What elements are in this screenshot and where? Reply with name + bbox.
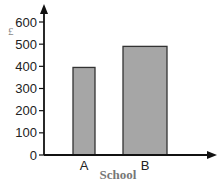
bar-a — [73, 67, 95, 155]
y-tick-label: 400 — [15, 59, 37, 74]
x-category-label: B — [141, 158, 150, 173]
bars — [73, 46, 167, 155]
x-category-label: A — [80, 158, 89, 173]
y-tick-label: 0 — [30, 148, 37, 163]
y-tick-label: 200 — [15, 103, 37, 118]
bar-chart: 0100200300400500600 AB £ School — [0, 0, 218, 183]
x-axis-arrow-icon — [207, 151, 217, 159]
y-tick-label: 600 — [15, 15, 37, 30]
y-tick-label: 500 — [15, 37, 37, 52]
y-axis-unit-label: £ — [8, 25, 14, 37]
bar-b — [123, 46, 167, 155]
y-axis-ticks: 0100200300400500600 — [15, 15, 44, 163]
y-tick-label: 100 — [15, 125, 37, 140]
x-axis-title: School — [100, 167, 137, 182]
y-axis-arrow-icon — [40, 4, 48, 14]
y-tick-label: 300 — [15, 81, 37, 96]
